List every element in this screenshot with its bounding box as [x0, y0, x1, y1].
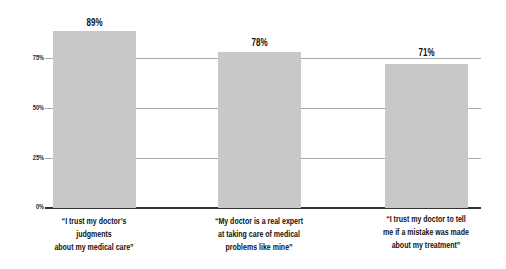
value-label: 71%: [393, 47, 459, 58]
bar-trust-judgments: [53, 31, 136, 208]
y-tick-0: 0%: [26, 203, 44, 210]
value-label: 78%: [226, 37, 292, 48]
value-label: 89%: [61, 17, 127, 28]
category-label: “I trust my doctor’s judgments about my …: [47, 215, 141, 254]
y-tick-75: 75%: [26, 54, 44, 61]
category-label: “My doctor is a real expert at taking ca…: [212, 215, 306, 254]
category-label: “I trust my doctor to tell me if a mista…: [379, 213, 473, 252]
y-tick-50: 50%: [26, 104, 44, 111]
bar-chart: 75% 50% 25% 0% 89% “I trust my doctor’s …: [0, 0, 506, 269]
bar-real-expert: [218, 52, 301, 208]
y-tick-25: 25%: [26, 154, 44, 161]
bar-tell-mistake: [385, 64, 468, 208]
